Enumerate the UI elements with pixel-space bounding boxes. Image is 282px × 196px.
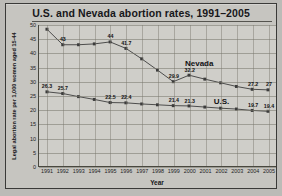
gridline-vertical	[269, 25, 270, 166]
y-axis-tick-label: 0	[33, 164, 36, 170]
chart-figure-frame: U.S. and Nevada abortion rates, 1991–200…	[5, 3, 277, 189]
y-axis-tick-label: 15	[30, 121, 36, 127]
x-axis-tick-label: 2004	[247, 168, 259, 174]
gridline-vertical	[174, 25, 175, 166]
gridline-vertical	[221, 25, 222, 166]
x-axis-tick-label: 1998	[152, 168, 164, 174]
data-point-label: 26.3	[42, 83, 52, 89]
gridline-vertical	[253, 25, 254, 166]
data-point-label: 21.4	[169, 97, 179, 103]
gridline-vertical	[79, 25, 80, 166]
gridline-vertical	[190, 25, 191, 166]
x-axis-tick-label: 1991	[41, 168, 53, 174]
gridline-vertical	[158, 25, 159, 166]
title-divider	[32, 21, 272, 22]
x-axis-tick-label: 1995	[104, 168, 116, 174]
gridline-vertical	[237, 25, 238, 166]
x-axis-tick-label: 2003	[231, 168, 243, 174]
gridline-vertical	[63, 25, 64, 166]
data-point-label: 25.7	[58, 85, 68, 91]
data-point-label: 22.5	[105, 94, 115, 100]
x-axis-tick-label: 1993	[73, 168, 85, 174]
y-axis-tick-label: 25	[30, 93, 36, 99]
series-label-us: U.S.	[214, 97, 230, 106]
y-axis-tick-label: 5	[33, 150, 36, 156]
x-axis-tick-label: 1994	[89, 168, 101, 174]
x-axis-title: Year	[38, 179, 276, 186]
chart-screenshot: U.S. and Nevada abortion rates, 1991–200…	[0, 0, 282, 196]
gridline-vertical	[95, 25, 96, 166]
y-axis-tick-label: 20	[30, 107, 36, 113]
y-axis-tick-label: 45	[30, 36, 36, 42]
y-axis-title: Legal abortion rate per 1,000 women aged…	[9, 25, 19, 167]
gridline-vertical	[206, 25, 207, 166]
x-axis-tick-label: 1996	[120, 168, 132, 174]
y-axis-title-text: Legal abortion rate per 1,000 women aged…	[11, 32, 17, 159]
gridline-vertical	[47, 25, 48, 166]
x-axis-tick-label: 2001	[200, 168, 212, 174]
y-axis-tick-label: 40	[30, 50, 36, 56]
x-axis-tick-label: 1992	[57, 168, 69, 174]
data-point-label: 29.9	[169, 73, 179, 79]
data-point-label: 27.2	[248, 81, 258, 87]
series-label-nevada: Nevada	[185, 59, 213, 68]
y-axis-tick-label: 10	[30, 136, 36, 142]
x-axis-tick-label: 1999	[168, 168, 180, 174]
x-axis-tick-label: 2005	[263, 168, 275, 174]
data-point-label: 43	[60, 36, 66, 42]
data-point-label: 19.7	[248, 102, 258, 108]
data-point-label: 44	[107, 33, 113, 39]
data-point-label: 21.3	[185, 98, 195, 104]
data-point-label: 19.4	[264, 103, 274, 109]
chart-title: U.S. and Nevada abortion rates, 1991–200…	[6, 7, 276, 19]
data-point-label: 22.4	[121, 94, 131, 100]
x-axis-tick-label: 1997	[136, 168, 148, 174]
y-axis-tick-label: 35	[30, 65, 36, 71]
y-axis-tick-label: 30	[30, 79, 36, 85]
y-axis-tick-label: 50	[30, 22, 36, 28]
x-axis-tick-label: 2000	[184, 168, 196, 174]
data-point-label: 27	[266, 81, 272, 87]
gridline-vertical	[142, 25, 143, 166]
data-point-label: 41.7	[121, 40, 131, 46]
plot-area: 0510152025303540455019911992199319941995…	[38, 25, 276, 167]
x-axis-tick-label: 2002	[215, 168, 227, 174]
